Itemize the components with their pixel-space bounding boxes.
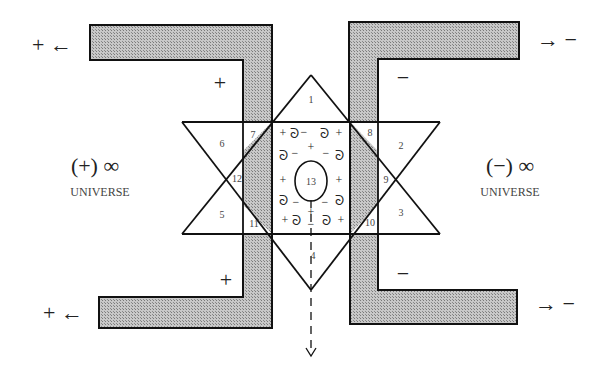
- svg-text:ᘐ: ᘐ: [335, 193, 344, 208]
- svg-text:−: −: [308, 217, 315, 231]
- svg-text:ᘐ: ᘐ: [290, 126, 299, 141]
- right-universe-symbol: (−) ∞: [486, 153, 534, 178]
- svg-text:−: −: [301, 125, 308, 139]
- svg-text:−: −: [323, 146, 330, 160]
- region-13: 13: [306, 176, 316, 187]
- bottom-right-bar: [350, 234, 517, 324]
- right-universe-label: UNIVERSE: [480, 185, 539, 199]
- svg-text:+: +: [308, 140, 315, 154]
- inner-sign-top-right: −: [397, 65, 409, 90]
- left-universe-symbol: (+) ∞: [71, 153, 119, 178]
- region-2: 2: [399, 140, 404, 151]
- flow-top-left: + ←: [32, 32, 72, 57]
- svg-text:ᘐ: ᘐ: [335, 148, 344, 163]
- svg-text:ᘐ: ᘐ: [279, 193, 288, 208]
- flow-bottom-right: → −: [535, 291, 575, 316]
- svg-text:ᘐ: ᘐ: [320, 126, 329, 141]
- svg-text:+: +: [280, 126, 287, 140]
- region-7: 7: [251, 129, 256, 140]
- svg-text:+: +: [282, 213, 289, 227]
- svg-text:ᘐ: ᘐ: [279, 148, 288, 163]
- svg-text:ᘐ: ᘐ: [292, 213, 301, 228]
- inner-sign-bottom-right: −: [397, 261, 409, 286]
- flow-bottom-left: + ←: [43, 300, 83, 325]
- svg-text:+: +: [280, 173, 287, 187]
- svg-text:+: +: [338, 213, 345, 227]
- svg-text:−: −: [322, 195, 329, 209]
- region-8: 8: [368, 127, 373, 138]
- svg-text:ᘐ: ᘐ: [322, 213, 331, 228]
- region-1: 1: [309, 94, 314, 105]
- bottom-left-bar: [99, 234, 272, 328]
- svg-text:−: −: [293, 195, 300, 209]
- diagram-canvas: 1 2 3 4 5 6 7 8 9 10 11 12 13 + ᘐ − ᘐ + …: [0, 0, 608, 384]
- region-9: 9: [384, 174, 389, 185]
- region-12: 12: [232, 173, 242, 184]
- svg-text:−: −: [292, 146, 299, 160]
- svg-text:+: +: [336, 173, 343, 187]
- top-right-bar: [349, 22, 519, 122]
- left-universe-label: UNIVERSE: [70, 185, 129, 199]
- inner-sign-bottom-left: +: [220, 267, 232, 292]
- region-4: 4: [311, 250, 316, 261]
- region-3: 3: [399, 207, 404, 218]
- region-10: 10: [365, 217, 375, 228]
- flow-top-right: → −: [537, 27, 577, 52]
- star-universe-diagram: 1 2 3 4 5 6 7 8 9 10 11 12 13 + ᘐ − ᘐ + …: [0, 0, 608, 384]
- top-left-bar: [90, 25, 272, 122]
- svg-text:+: +: [336, 126, 343, 140]
- inner-sign-top-left: +: [214, 70, 226, 95]
- region-5: 5: [220, 209, 225, 220]
- region-11: 11: [249, 218, 259, 229]
- region-6: 6: [220, 138, 225, 149]
